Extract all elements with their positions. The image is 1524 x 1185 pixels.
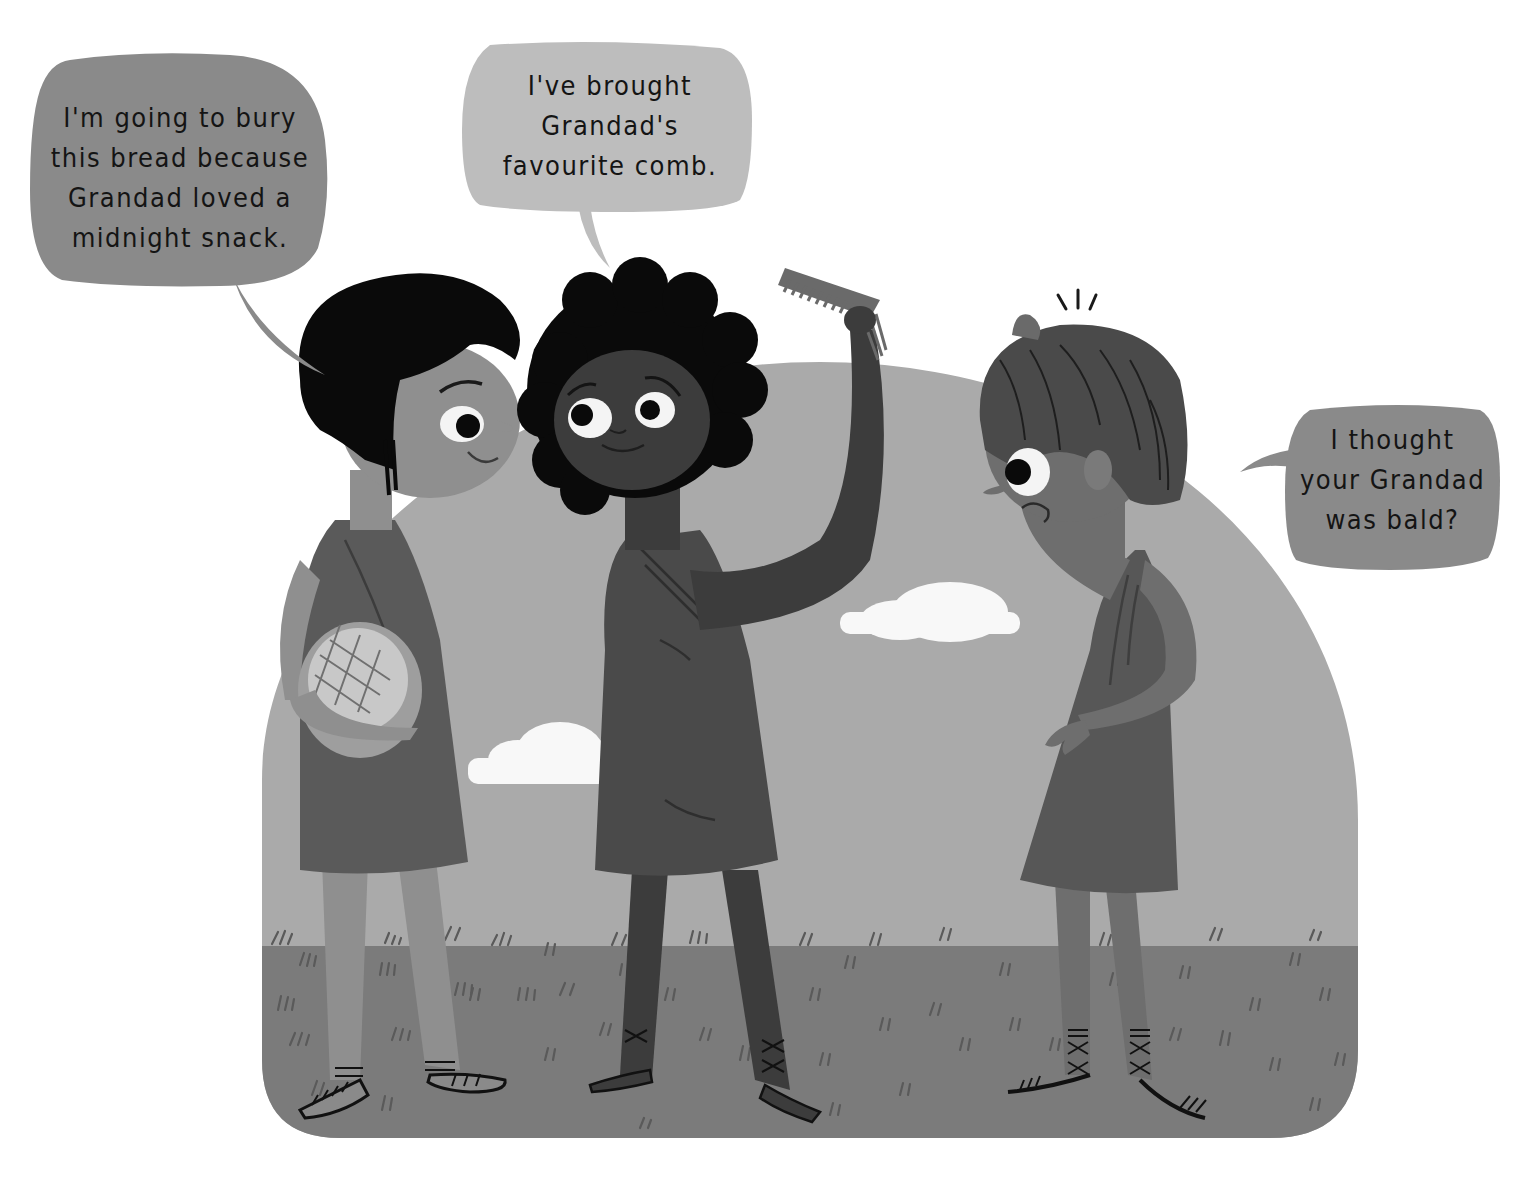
speech-line: this bread because [40,138,320,178]
speech-line: was bald? [1290,500,1495,540]
left-child-legs [322,860,368,1080]
hair-tuft [1012,314,1040,340]
speech-line: midnight snack. [40,218,320,258]
speech-line: favourite comb. [470,146,750,186]
speech-line: I'm going to bury [40,98,320,138]
speech-line: I've brought [470,66,750,106]
speech-line: Grandad's [470,106,750,146]
speech-text-right: I thought your Grandad was bald? [1290,420,1495,540]
speech-line: Grandad loved a [40,178,320,218]
speech-text-middle: I've brought Grandad's favourite comb. [470,66,750,186]
speech-line: I thought [1290,420,1495,460]
grass-field [240,946,1380,1166]
speech-text-left: I'm going to bury this bread because Gra… [40,98,320,258]
speech-line: your Grandad [1290,460,1495,500]
